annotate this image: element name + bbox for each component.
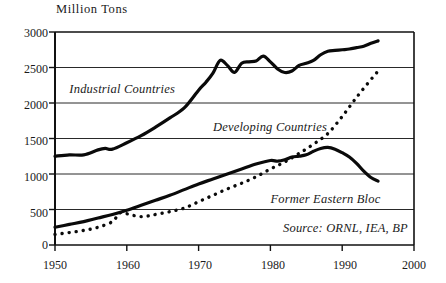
x-tick-1970: 1970 [177,258,223,273]
y-tick-1500: 1500 [6,134,48,149]
x-tick-2000: 2000 [391,258,437,273]
y-tick-3000: 3000 [6,26,48,41]
y-tick-2000: 2000 [6,98,48,113]
x-tick-1990: 1990 [322,258,368,273]
source-note: Source: ORNL, IEA, BP [283,221,408,236]
x-tick-1960: 1960 [105,258,151,273]
y-tick-1000: 1000 [6,170,48,185]
series-label-industrial-countries: Industrial Countries [69,82,175,97]
plot-area [0,0,446,283]
y-tick-500: 500 [6,206,48,221]
series-label-developing-countries: Developing Countries [213,120,327,135]
y-tick-0: 0 [6,238,48,253]
x-tick-1980: 1980 [250,258,296,273]
fossil-fuel-emissions-chart: Million Tons 3000 2500 2000 1500 1000 50… [0,0,446,283]
series-label-former-eastern-bloc: Former Eastern Bloc [270,192,380,207]
x-tick-1950: 1950 [32,258,78,273]
series-path-former-eastern-bloc [55,147,378,227]
y-tick-2500: 2500 [6,62,48,77]
